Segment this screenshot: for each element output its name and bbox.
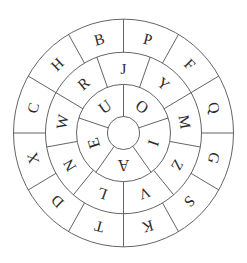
inner-ring-divider bbox=[133, 146, 151, 172]
outer-ring-letter: H bbox=[47, 54, 66, 74]
middle-ring-letter: L bbox=[95, 184, 109, 203]
inner-ring-letter: U bbox=[95, 95, 116, 118]
middle-ring-letter: W bbox=[52, 112, 71, 130]
outer-ring-letter: K bbox=[140, 217, 155, 237]
outer-ring-divider bbox=[69, 34, 85, 63]
middle-ring-letter: J bbox=[121, 60, 127, 77]
outer-ring-letter: C bbox=[23, 101, 42, 115]
inner-ring-divider bbox=[96, 146, 114, 172]
outer-ring-letter: G bbox=[205, 151, 224, 166]
middle-ring-divider bbox=[154, 170, 174, 195]
middle-ring-divider bbox=[73, 170, 93, 195]
cipher-wheel: PFQGSKTDXCHB JYMZVLNWR OIAEU bbox=[0, 0, 247, 263]
segment-dividers bbox=[14, 19, 234, 247]
hub-circle bbox=[108, 116, 140, 149]
inner-ring-letter: E bbox=[83, 135, 104, 151]
middle-ring-divider bbox=[140, 57, 151, 87]
outer-ring-divider bbox=[163, 203, 179, 232]
middle-ring-divider bbox=[164, 93, 191, 109]
middle-ring-letter: Y bbox=[154, 73, 173, 93]
outer-ring-letter: F bbox=[181, 55, 199, 73]
outer-ring-divider bbox=[191, 76, 219, 93]
outer-ring-letter: P bbox=[142, 30, 154, 49]
outer-ring-divider bbox=[69, 203, 85, 232]
middle-ring-letter: N bbox=[59, 156, 79, 174]
wheel-root: PFQGSKTDXCHB JYMZVLNWR OIAEU bbox=[14, 19, 234, 247]
outer-ring-letter: T bbox=[92, 217, 106, 236]
outer-ring-divider bbox=[28, 173, 56, 190]
middle-ring-divider bbox=[47, 141, 78, 147]
middle-ring-letter: R bbox=[74, 73, 93, 93]
outer-ring-letter: D bbox=[47, 192, 66, 212]
outer-ring-divider bbox=[163, 34, 179, 63]
inner-ring-letter: O bbox=[132, 95, 153, 118]
outer-ring-letter: X bbox=[23, 151, 42, 166]
inner-ring-letter: A bbox=[117, 156, 129, 175]
inner-ring-divider bbox=[139, 118, 168, 128]
middle-ring-divider bbox=[56, 93, 83, 109]
inner-ring-letter: I bbox=[144, 137, 163, 148]
inner-ring-divider bbox=[79, 118, 108, 128]
middle-ring-divider bbox=[170, 141, 201, 147]
outer-ring-letter: B bbox=[92, 29, 106, 48]
outer-ring-letter: S bbox=[181, 193, 199, 211]
middle-ring-letter: Z bbox=[168, 157, 187, 174]
middle-ring-letter: M bbox=[176, 113, 195, 130]
outer-ring-divider bbox=[28, 76, 56, 93]
outer-ring-divider bbox=[191, 173, 219, 190]
middle-ring-divider bbox=[97, 57, 108, 87]
middle-ring-letter: V bbox=[137, 184, 153, 204]
outer-ring-letter: Q bbox=[205, 100, 224, 115]
